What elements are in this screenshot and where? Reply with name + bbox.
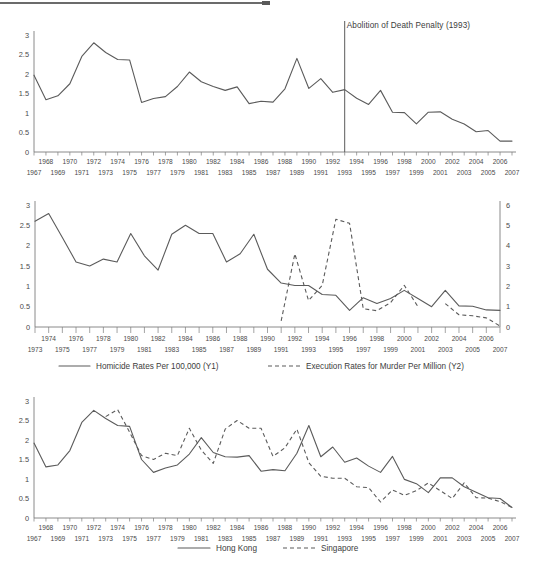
chart2-y-tick-label: 0.5 (20, 302, 30, 311)
chart3-series-2 (106, 410, 512, 508)
chart2-x-axis-labels: 1973197519771979198119831985198719891991… (28, 335, 508, 353)
chart3-year-label: 1997 (385, 535, 400, 542)
chart2-axis (35, 201, 500, 333)
chart2-year-label: 1999 (383, 346, 398, 353)
chart3-year-label: 1983 (218, 535, 233, 542)
chart1-year-label: 1975 (122, 169, 137, 176)
chart2-year-label: 1993 (301, 346, 316, 353)
chart3-year-label: 1992 (325, 524, 340, 531)
chart3-year-label: 1975 (122, 535, 137, 542)
chart2-y-tick-label: 1.5 (20, 262, 30, 271)
chart3-year-label: 1986 (254, 524, 269, 531)
chart3-year-label: 1990 (302, 524, 317, 531)
chart3-y-tick-label: 0 (25, 514, 29, 523)
chart1-y-tick-label: 0 (25, 148, 29, 157)
chart2-year-label: 1996 (342, 335, 357, 342)
chart2-year-label: 2005 (465, 346, 480, 353)
chart1-year-label: 1987 (266, 169, 281, 176)
chart1-year-label: 1984 (230, 158, 245, 165)
chart2-year-label: 1979 (110, 346, 125, 353)
chart2-year-label: 2000 (397, 335, 412, 342)
chart3-y-tick-label: 3 (25, 397, 29, 406)
chart-hong-kong-vs-singapore: 32.521.510.50 19671969197119731975197719… (0, 380, 534, 575)
chart2-y2-tick-label: 1 (506, 302, 510, 311)
chart3-year-label: 2003 (457, 535, 472, 542)
chart2-y1-axis-labels: 32.521.510.50 (20, 201, 30, 332)
chart1-year-label: 1992 (325, 158, 340, 165)
chart1-year-label: 1976 (134, 158, 149, 165)
chart1-y-tick-label: 3 (25, 31, 29, 40)
chart1-year-label: 2007 (505, 169, 520, 176)
chart2-y-tick-label: 3 (26, 201, 30, 210)
chart2-legend: Homicide Rates Per 100,000 (Y1) Executio… (59, 362, 464, 371)
chart1-year-label: 1970 (63, 158, 78, 165)
chart1-y-tick-label: 1.5 (19, 89, 29, 98)
chart3-x-axis-labels: 1967196919711973197519771979198119831985… (27, 524, 520, 542)
chart2-y2-tick-label: 5 (506, 221, 510, 230)
chart1-year-label: 2001 (433, 169, 448, 176)
chart3-year-label: 1984 (230, 524, 245, 531)
chart1-year-label: 1996 (373, 158, 388, 165)
chart3-series-1 (34, 410, 512, 507)
chart3-year-label: 1985 (242, 535, 257, 542)
chart1-year-label: 1969 (51, 169, 66, 176)
chart2-legend-solid-label: Homicide Rates Per 100,000 (Y1) (96, 362, 219, 371)
chart1-year-label: 1979 (170, 169, 185, 176)
chart1-year-label: 2006 (493, 158, 508, 165)
chart2-year-label: 2006 (479, 335, 494, 342)
chart3-y-tick-label: 1.5 (19, 455, 29, 464)
chart2-year-label: 2002 (424, 335, 439, 342)
chart2-year-label: 1976 (69, 335, 84, 342)
chart2-year-label: 1986 (205, 335, 220, 342)
chart2-y2-tick-label: 4 (506, 241, 510, 250)
chart1-year-label: 1998 (397, 158, 412, 165)
chart1-year-label: 2000 (421, 158, 436, 165)
chart-singapore-homicide-execution: 32.521.510.50 6543210 197319751977197919… (0, 190, 534, 380)
chart3-year-label: 2002 (445, 524, 460, 531)
chart3-year-label: 2004 (469, 524, 484, 531)
chart2-year-label: 1978 (96, 335, 111, 342)
chart1-year-label: 2002 (445, 158, 460, 165)
chart2-year-label: 2003 (438, 346, 453, 353)
chart2-year-label: 1977 (82, 346, 97, 353)
chart2-y-tick-label: 2 (26, 241, 30, 250)
chart1-year-label: 1991 (313, 169, 328, 176)
chart-page: 32.521.510.50 19671969197119731975197719… (0, 0, 534, 575)
chart1-year-label: 1995 (361, 169, 376, 176)
chart2-series-1 (35, 214, 500, 311)
chart1-year-label: 1980 (182, 158, 197, 165)
chart3-year-label: 1998 (397, 524, 412, 531)
chart3-legend-solid-label: Hong Kong (216, 544, 257, 553)
chart3-year-label: 1977 (146, 535, 161, 542)
chart3-year-label: 1969 (51, 535, 66, 542)
chart-hong-kong-homicide-abolition: 32.521.510.50 19671969197119731975197719… (0, 8, 534, 190)
chart1-x-axis-labels: 1967196919711973197519771979198119831985… (27, 158, 520, 176)
chart1-year-label: 1994 (349, 158, 364, 165)
chart3-year-label: 1976 (134, 524, 149, 531)
chart3-year-label: 1987 (266, 535, 281, 542)
chart2-y-tick-label: 0 (26, 323, 30, 332)
chart3-legend: Hong Kong Singapore (178, 544, 359, 553)
chart3-svg: 32.521.510.50 19671969197119731975197719… (0, 380, 534, 575)
chart3-year-label: 1978 (158, 524, 173, 531)
chart1-year-label: 1967 (27, 169, 42, 176)
chart1-annotation-label: Abolition of Death Penalty (1993) (347, 21, 470, 30)
chart2-year-label: 1990 (260, 335, 275, 342)
top-rule (0, 2, 270, 4)
chart2-series-2 (281, 219, 500, 326)
chart1-y-tick-label: 1 (25, 109, 29, 118)
chart3-year-label: 2001 (433, 535, 448, 542)
chart3-year-label: 1991 (313, 535, 328, 542)
chart2-year-label: 1983 (164, 346, 179, 353)
chart2-year-label: 1998 (370, 335, 385, 342)
chart1-y-tick-label: 2 (25, 70, 29, 79)
chart3-year-label: 2007 (505, 535, 520, 542)
chart3-year-label: 1982 (206, 524, 221, 531)
chart3-year-label: 1973 (98, 535, 113, 542)
chart2-year-label: 1984 (178, 335, 193, 342)
chart1-year-label: 1988 (278, 158, 293, 165)
chart2-y2-tick-label: 0 (506, 323, 510, 332)
chart3-y-tick-label: 1 (25, 475, 29, 484)
chart1-year-label: 1983 (218, 169, 233, 176)
chart3-legend-dashed-label: Singapore (321, 544, 359, 553)
